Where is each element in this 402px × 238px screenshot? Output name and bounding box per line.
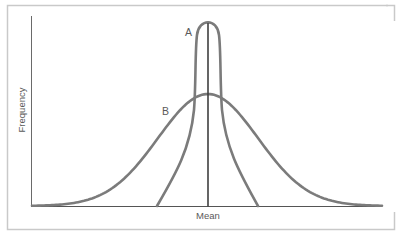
curve-b — [32, 94, 382, 206]
y-axis-label: Frequency — [16, 87, 27, 132]
curve-a-label: A — [185, 26, 192, 38]
curve-b-label: B — [162, 105, 169, 117]
chart-frame — [8, 6, 395, 230]
x-axis-label: Mean — [196, 210, 220, 221]
chart: A B Mean Frequency — [0, 0, 402, 238]
